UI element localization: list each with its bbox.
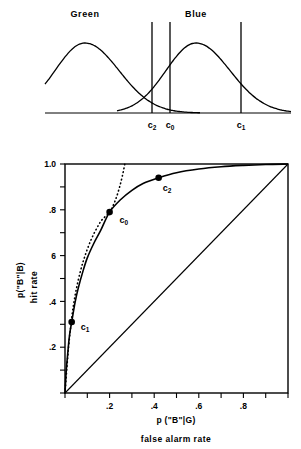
y-axis-subtitle: hit rate <box>29 271 39 303</box>
y-tick-label: .4 <box>49 297 56 307</box>
x-axis-subtitle: false alarm rate <box>141 434 211 444</box>
top-panel: Green Blue c2c0c1 <box>45 9 291 131</box>
x-axis-ticks <box>65 393 288 398</box>
y-axis-title: p("B"|B) <box>15 262 25 298</box>
roc-point-label-c0: c0 <box>120 215 129 226</box>
y-tick-label: 1.0 <box>44 159 56 169</box>
criterion-label-c0: c0 <box>166 120 175 131</box>
x-tick-label: .4 <box>151 401 158 411</box>
roc-point-label-c2: c2 <box>163 183 172 194</box>
roc-marked-points-group: c1c0c2 <box>68 174 171 333</box>
criterion-label-c2: c2 <box>148 120 157 131</box>
figure-svg: Green Blue c2c0c1 .2.4.6.8 .2.46.81.0 c1… <box>0 0 301 449</box>
chance-diagonal-line <box>65 164 288 393</box>
y-tick-label: 6 <box>51 251 56 261</box>
y-axis-ticks <box>60 164 65 393</box>
x-tick-label: .6 <box>195 401 202 411</box>
roc-point-label-c1: c1 <box>81 322 90 333</box>
roc-point-c2 <box>155 174 162 181</box>
figure-container: Green Blue c2c0c1 .2.4.6.8 .2.46.81.0 c1… <box>0 0 301 449</box>
blue-distribution-label: Blue <box>185 9 207 19</box>
x-tick-label: .2 <box>106 401 113 411</box>
criterion-labels-group: c2c0c1 <box>148 120 246 131</box>
x-axis-title: p ("B"|G) <box>156 415 195 425</box>
y-axis-tick-labels: .2.46.81.0 <box>44 159 56 352</box>
blue-distribution-curve <box>117 43 291 112</box>
y-tick-label: .2 <box>49 342 56 352</box>
roc-point-c0 <box>106 209 113 216</box>
roc-point-c1 <box>68 319 75 326</box>
iso-bias-dotted-line <box>65 164 125 393</box>
green-distribution-curve <box>45 43 200 113</box>
roc-panel: .2.4.6.8 .2.46.81.0 c1c0c2 p ("B"|G) fal… <box>15 159 288 444</box>
green-distribution-label: Green <box>70 9 99 19</box>
criterion-label-c1: c1 <box>237 120 246 131</box>
x-axis-tick-labels: .2.4.6.8 <box>106 401 247 411</box>
y-tick-label: .8 <box>49 205 56 215</box>
x-tick-label: .8 <box>240 401 247 411</box>
